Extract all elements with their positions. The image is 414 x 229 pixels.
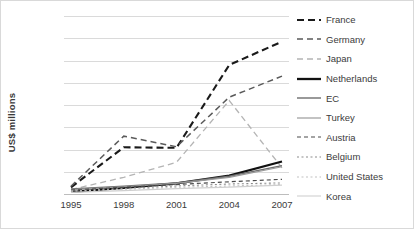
- line-chart-figure: US$ millions 02004006008001 0001 2001 40…: [0, 0, 414, 229]
- legend-swatch-icon: [297, 74, 321, 84]
- legend-label: Austria: [326, 132, 356, 143]
- legend-swatch-icon: [297, 172, 321, 182]
- legend-swatch-icon: [297, 93, 321, 103]
- legend-swatch-icon: [297, 34, 321, 44]
- legend-item-france[interactable]: France: [297, 10, 413, 30]
- legend: FranceGermanyJapanNetherlandsECTurkeyAus…: [297, 10, 413, 206]
- legend-label: Japan: [326, 53, 352, 64]
- legend-item-ec[interactable]: EC: [297, 88, 413, 108]
- legend-swatch-icon: [297, 113, 321, 123]
- gridline: [64, 194, 289, 195]
- legend-swatch-icon: [297, 152, 321, 162]
- legend-label: EC: [326, 93, 339, 104]
- series-line-france: [71, 42, 282, 188]
- legend-item-netherlands[interactable]: Netherlands: [297, 69, 413, 89]
- legend-item-austria[interactable]: Austria: [297, 128, 413, 148]
- series-lines: [64, 16, 289, 194]
- legend-item-korea[interactable]: Korea: [297, 186, 413, 206]
- legend-label: Turkey: [326, 112, 355, 123]
- legend-swatch-icon: [297, 15, 321, 25]
- x-tick-label: 1995: [44, 199, 98, 210]
- legend-swatch-icon: [297, 191, 321, 201]
- legend-item-japan[interactable]: Japan: [297, 49, 413, 69]
- legend-label: Belgium: [326, 151, 360, 162]
- legend-label: Germany: [326, 34, 365, 45]
- legend-label: Netherlands: [326, 73, 377, 84]
- legend-swatch-icon: [297, 132, 321, 142]
- legend-item-belgium[interactable]: Belgium: [297, 147, 413, 167]
- x-tick-label: 2001: [150, 199, 204, 210]
- plot-area: [64, 16, 289, 194]
- legend-label: France: [326, 14, 356, 25]
- legend-item-turkey[interactable]: Turkey: [297, 108, 413, 128]
- x-tick-label: 1998: [97, 199, 151, 210]
- legend-item-united-states[interactable]: United States: [297, 167, 413, 187]
- legend-label: United States: [326, 171, 383, 182]
- series-line-japan: [71, 101, 282, 190]
- x-tick-label: 2004: [202, 199, 256, 210]
- legend-item-germany[interactable]: Germany: [297, 30, 413, 50]
- legend-swatch-icon: [297, 54, 321, 64]
- legend-label: Korea: [326, 191, 351, 202]
